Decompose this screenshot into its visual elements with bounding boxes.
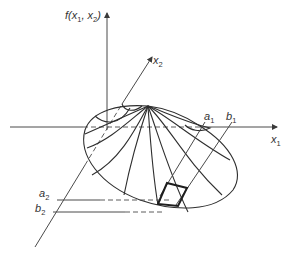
- b2-label: b2: [35, 202, 45, 217]
- x2-axis-label: x2: [152, 54, 163, 69]
- surface-curve: [124, 106, 148, 195]
- density-surface-diagram: f(x1, x2) x1 x2 a1 b1 a2 b2: [0, 0, 292, 257]
- x1-axis-label: x1: [270, 133, 281, 148]
- f-axis-label: f(x1, x2): [65, 9, 101, 24]
- x2-axis: [122, 57, 152, 104]
- a1-label: a1: [204, 110, 214, 125]
- surface-curve: [85, 106, 148, 134]
- probability-patch: [158, 183, 187, 206]
- surface-curve: [92, 106, 148, 175]
- b1-label: b1: [226, 110, 236, 125]
- a2-label: a2: [39, 187, 49, 202]
- surface-curve: [148, 106, 230, 160]
- contour-arc: [122, 104, 142, 110]
- x2-axis-lower: [35, 165, 85, 247]
